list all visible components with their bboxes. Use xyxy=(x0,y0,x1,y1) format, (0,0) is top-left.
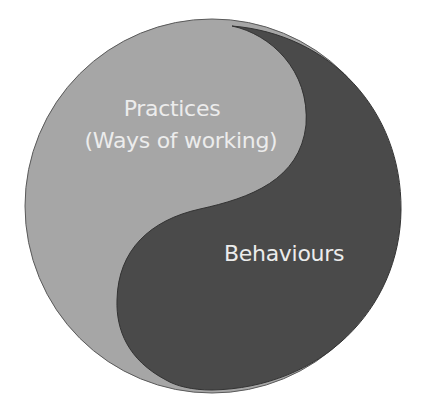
behaviours-label: Behaviours xyxy=(224,240,344,267)
practices-label: Practices xyxy=(0,95,344,122)
ways-of-working-label: (Ways of working) xyxy=(0,127,362,154)
yin-yang-diagram: Practices (Ways of working) Behaviours xyxy=(0,0,427,414)
yin-yang-graphic xyxy=(0,0,427,414)
